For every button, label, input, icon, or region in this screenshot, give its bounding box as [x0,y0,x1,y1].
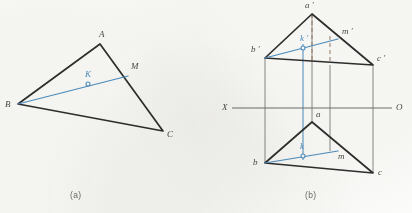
caption-panel-b: (b) [305,190,317,200]
horizontal-point-k-marker [301,154,305,158]
label-point-k: K [85,70,91,79]
label-vertex-b: B [5,100,11,109]
label-point-k-horizontal: k [300,142,304,151]
label-point-k-prime: k ′ [300,34,308,43]
line-bm-segment [18,76,128,104]
frontal-triangle-outline [265,14,373,65]
panel-a-group [18,44,163,131]
label-point-m: M [131,62,139,71]
label-axis-o: O [396,103,403,112]
label-vertex-b-prime: b ′ [251,45,260,54]
caption-panel-a: (a) [70,190,82,200]
label-point-m-prime: m ′ [342,27,353,36]
panel-b-group [232,14,392,173]
label-vertex-b-horizontal: b [253,158,258,167]
label-vertex-a-horizontal: a [316,110,321,119]
horizontal-triangle-outline [265,122,373,173]
label-vertex-c: C [167,130,173,139]
label-axis-x: X [222,103,228,112]
label-point-m-horizontal: m [338,152,345,161]
label-vertex-a: A [99,30,105,39]
label-vertex-c-prime: c ′ [377,54,385,63]
label-vertex-c-horizontal: c [378,168,382,177]
point-k-marker [86,82,90,86]
triangle-abc-outline [18,44,163,131]
figure-root: B A C M K a ′ b ′ c ′ m ′ k ′ a b c m k … [0,0,412,213]
frontal-point-k-marker [301,46,305,50]
label-vertex-a-prime: a ′ [305,1,314,10]
